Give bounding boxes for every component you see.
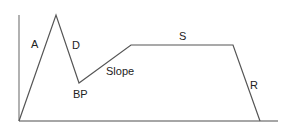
breakpoint-label: BP	[73, 88, 88, 100]
sustain-label: S	[179, 30, 186, 42]
slope-label: Slope	[106, 65, 134, 77]
release-label: R	[250, 79, 258, 91]
attack-label: A	[31, 38, 39, 50]
envelope-curve	[19, 15, 260, 121]
decay-label: D	[72, 39, 80, 51]
envelope-diagram: A D BP Slope S R	[0, 0, 292, 126]
